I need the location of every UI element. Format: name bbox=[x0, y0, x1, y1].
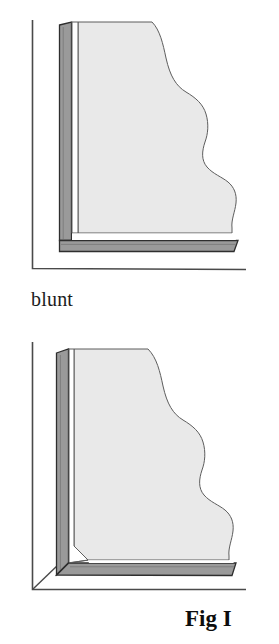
mitered-vertical-strip bbox=[57, 349, 69, 575]
caption-blunt: blunt bbox=[31, 289, 73, 309]
blunt-vertical-strip bbox=[60, 22, 72, 241]
blunt-horizontal-light-sliver bbox=[72, 234, 236, 241]
blunt-vertical-light-sliver bbox=[72, 22, 78, 233]
diagram-panel-blunt: blunt bbox=[0, 0, 279, 320]
diagram-panel-mitered: mitered bbox=[0, 320, 279, 644]
blunt-horizontal-band bbox=[60, 241, 239, 252]
mitered-horizontal-band bbox=[57, 563, 237, 576]
mitered-joint-diagram bbox=[0, 320, 279, 644]
figure-label: Fig I bbox=[185, 607, 232, 630]
figure-container: blunt bbox=[0, 0, 279, 644]
mitered-horizontal-light-sliver bbox=[88, 560, 234, 563]
mitered-moulding-light-face bbox=[74, 349, 233, 560]
blunt-moulding-light-face bbox=[78, 22, 236, 233]
blunt-joint-diagram bbox=[0, 0, 279, 320]
